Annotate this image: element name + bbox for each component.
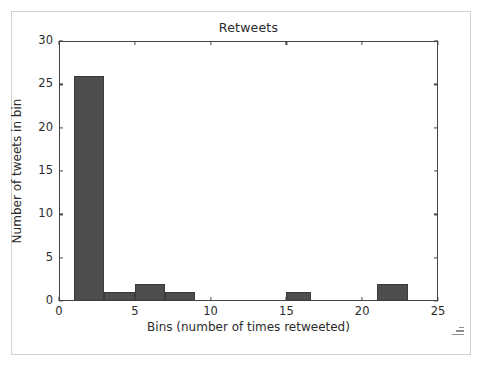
y-tick-label: 15: [38, 165, 53, 177]
histogram-bars: [59, 41, 438, 301]
y-tick-mark-right: [434, 127, 438, 128]
y-tick-label: 5: [46, 252, 53, 264]
x-axis-label: Bins (number of times retweeted): [59, 320, 438, 334]
x-tick-mark-top: [286, 41, 287, 45]
histogram-bar: [104, 292, 134, 301]
histogram-bar: [286, 292, 310, 301]
y-tick-mark-right: [434, 170, 438, 171]
y-tick-label: 20: [38, 122, 53, 134]
x-tick-mark-top: [134, 41, 135, 45]
x-tick-mark-top: [210, 41, 211, 45]
chart-title: Retweets: [59, 20, 438, 35]
x-tick-label: 0: [55, 306, 62, 318]
y-tick-mark: [59, 214, 63, 215]
plot-axes-area: 051015202530 0510152025: [59, 41, 438, 301]
y-tick-mark: [59, 84, 63, 85]
x-tick-label: 20: [355, 306, 370, 318]
y-tick-label: 30: [38, 35, 53, 47]
resize-grip-icon[interactable]: [451, 323, 464, 336]
y-tick-label: 10: [38, 209, 53, 221]
y-tick-mark-right: [434, 257, 438, 258]
x-tick-label: 10: [203, 306, 218, 318]
y-tick-mark: [59, 300, 63, 301]
y-tick-mark: [59, 170, 63, 171]
histogram-bar: [135, 284, 165, 301]
figure-frame: Retweets 051015202530 0510152025 Bins (n…: [11, 11, 471, 355]
y-tick-mark: [59, 40, 63, 41]
x-tick-mark-top: [437, 41, 438, 45]
x-tick-mark: [437, 297, 438, 301]
y-axis-label: Number of tweets in bin: [10, 41, 26, 301]
y-tick-mark-right: [434, 84, 438, 85]
y-tick-mark: [59, 257, 63, 258]
x-tick-mark-top: [362, 41, 363, 45]
y-tick-label: 25: [38, 79, 53, 91]
histogram-bar: [165, 292, 195, 301]
histogram-bar: [74, 76, 104, 301]
x-tick-mark: [210, 297, 211, 301]
x-tick-label: 15: [279, 306, 294, 318]
y-tick-mark: [59, 127, 63, 128]
x-tick-mark: [362, 297, 363, 301]
x-tick-mark: [286, 297, 287, 301]
x-tick-label: 5: [131, 306, 138, 318]
histogram-bar: [377, 284, 407, 301]
y-tick-mark-right: [434, 214, 438, 215]
y-tick-label: 0: [46, 295, 53, 307]
x-tick-mark-top: [58, 41, 59, 45]
x-tick-label: 25: [431, 306, 446, 318]
x-tick-mark: [58, 297, 59, 301]
x-tick-mark: [134, 297, 135, 301]
